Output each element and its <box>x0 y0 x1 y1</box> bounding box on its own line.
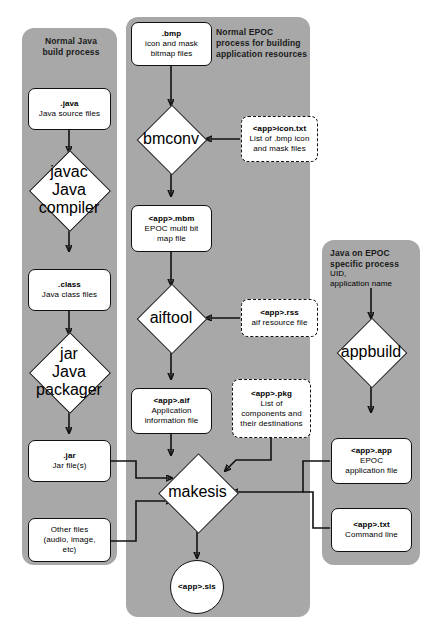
node-pkg[interactable]: <app>.pkg List of components and their d… <box>232 379 311 438</box>
node-txt[interactable]: <app>.txt Command line <box>331 508 412 552</box>
node-subtitle: Java source files <box>39 109 100 119</box>
node-title: <app>.txt <box>353 520 389 530</box>
node-title: .java <box>60 99 78 109</box>
node-title: .bmp <box>162 29 182 39</box>
node-mbm[interactable]: <app>.mbm EPOC multi bit map file <box>131 205 212 252</box>
node-aif[interactable]: <app>.aif Application information file <box>131 388 212 434</box>
node-rss[interactable]: <app>.rss aif resource file <box>241 299 318 337</box>
node-class[interactable]: .class Java class files <box>28 269 111 311</box>
node-title: .jar <box>63 451 75 461</box>
node-title: <app>icon.txt <box>253 124 306 134</box>
node-subtitle: EPOC application file <box>345 456 397 476</box>
panel-title-epoc: Normal EPOC process for building applica… <box>216 27 312 60</box>
node-jar-file[interactable]: .jar Jar file(s) <box>28 440 111 482</box>
node-title: <app>.sis <box>178 582 216 592</box>
panel-title-java-on-epoc: Java on EPOC specific process <box>330 248 420 270</box>
node-bmp[interactable]: .bmp icon and mask bitmap files <box>131 22 212 66</box>
node-subtitle: Other files (audio, image, etc) <box>43 525 95 555</box>
node-subtitle: List of components and their destination… <box>240 399 302 429</box>
node-title: <app>.pkg <box>251 389 292 399</box>
node-title: .class <box>58 280 81 290</box>
node-subtitle: EPOC multi bit map file <box>145 224 199 244</box>
node-java-source[interactable]: .java Java source files <box>28 88 111 130</box>
node-subtitle: Java class files <box>42 290 97 300</box>
node-title: <app>.aif <box>153 396 189 406</box>
node-subtitle: icon and mask bitmap files <box>145 39 198 59</box>
node-subtitle: List of .bmp icon and mask files <box>250 134 310 154</box>
node-subtitle: Command line <box>345 530 398 540</box>
node-app[interactable]: <app>.app EPOC application file <box>331 438 412 484</box>
diagram-canvas: Normal Java build process Normal EPOC pr… <box>0 0 429 637</box>
node-subtitle: aif resource file <box>252 318 308 328</box>
node-other-files[interactable]: Other files (audio, image, etc) <box>28 518 111 562</box>
node-uid-label: UID, application name <box>330 268 422 290</box>
node-subtitle: Jar file(s) <box>53 461 87 471</box>
node-title: <app>.app <box>351 446 392 456</box>
node-sis[interactable]: <app>.sis <box>170 560 224 614</box>
node-subtitle: Application information file <box>145 406 199 426</box>
node-subtitle: UID, application name <box>330 269 392 289</box>
node-icon-txt[interactable]: <app>icon.txt List of .bmp icon and mask… <box>241 116 318 162</box>
node-title: <app>.rss <box>260 308 299 318</box>
node-title: <app>.mbm <box>149 214 195 224</box>
panel-title-java: Normal Java build process <box>30 36 112 58</box>
